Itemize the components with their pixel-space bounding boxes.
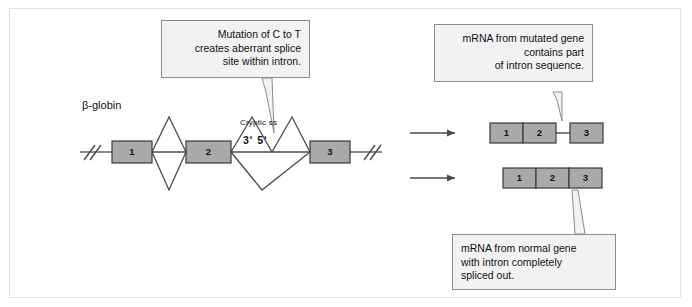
arrow-to-normal-mrna xyxy=(410,175,455,182)
figure-canvas: β-globin Cryptic ss 3ʹ 5ʹ 1 2 3 1 2 3 1 … xyxy=(0,0,692,307)
gene-exon-label-2: 2 xyxy=(186,147,231,157)
normal-mrna-exon-label-3: 3 xyxy=(569,173,602,183)
normal-mrna-callout-line-3: spliced out. xyxy=(461,269,607,283)
mutation-callout-box: Mutation of C to T creates aberrant spli… xyxy=(161,20,310,78)
normal-mrna-callout-pointer xyxy=(572,190,585,234)
gene-label: β-globin xyxy=(82,99,121,111)
cryptic-splice-site-label: Cryptic ss xyxy=(240,118,277,127)
mutant-mrna-callout-line-1: mRNA from mutated gene xyxy=(443,32,584,46)
mutation-callout-line-3: site within intron. xyxy=(170,55,301,69)
normal-mrna-exon-label-2: 2 xyxy=(536,173,569,183)
gene-exon-label-1: 1 xyxy=(112,147,152,157)
mutant-mrna-callout-box: mRNA from mutated gene contains part of … xyxy=(434,24,593,82)
mutant-mrna-callout-line-2: contains part xyxy=(443,46,584,60)
mutation-callout-line-2: creates aberrant splice xyxy=(170,42,301,56)
splice-peak-intron1 xyxy=(152,117,186,152)
splice-v-intron2-long xyxy=(231,152,310,190)
gene-exon-label-3: 3 xyxy=(310,147,350,157)
mutant-mrna-exon-label-3: 3 xyxy=(570,128,603,138)
cryptic-splice-site-ends-label: 3ʹ 5ʹ xyxy=(243,134,268,146)
normal-mrna-exon-label-1: 1 xyxy=(503,173,536,183)
mutation-callout-line-1: Mutation of C to T xyxy=(170,28,301,42)
mutant-mrna-callout-line-3: of intron sequence. xyxy=(443,59,584,73)
splice-peak-intron2-right xyxy=(272,117,310,152)
mutant-mrna-callout-pointer xyxy=(553,92,562,121)
normal-mrna-callout-line-2: with intron completely xyxy=(461,256,607,270)
splice-v-intron1 xyxy=(152,152,186,190)
arrow-to-mutant-mrna xyxy=(410,130,455,137)
normal-mrna-callout-box: mRNA from normal gene with intron comple… xyxy=(452,234,616,290)
mutant-mrna-exon-label-1: 1 xyxy=(490,128,523,138)
normal-mrna-callout-line-1: mRNA from normal gene xyxy=(461,242,607,256)
mutant-mrna-exon-label-2: 2 xyxy=(523,128,556,138)
